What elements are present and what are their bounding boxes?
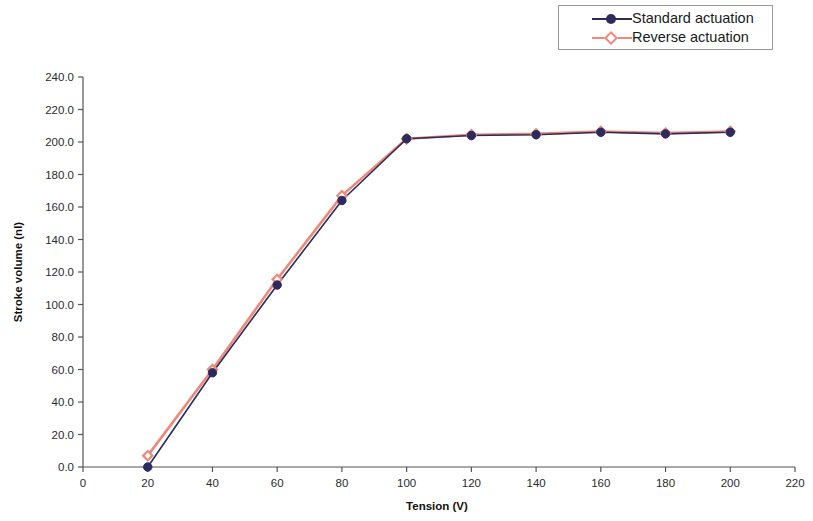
y-tick-label: 220.0: [45, 104, 74, 116]
x-tick-label: 80: [336, 477, 349, 489]
y-tick-label: 80.0: [52, 331, 74, 343]
x-tick-label: 200: [721, 477, 740, 489]
y-axis-title: Stroke volume (nl): [12, 222, 24, 322]
x-tick-label: 220: [785, 477, 804, 489]
y-tick-label: 140.0: [45, 234, 74, 246]
data-point-standard: [532, 130, 540, 138]
y-tick-label: 60.0: [52, 364, 74, 376]
x-tick-label: 60: [271, 477, 284, 489]
legend-label-standard: Standard actuation: [632, 9, 754, 28]
data-point-standard: [273, 281, 281, 289]
legend-marker-circle-icon: [606, 14, 616, 24]
data-point-standard: [208, 369, 216, 377]
y-tick-label: 20.0: [52, 429, 74, 441]
y-tick-label: 0.0: [58, 461, 74, 473]
x-tick-label: 180: [656, 477, 675, 489]
data-point-standard: [338, 196, 346, 204]
legend-label-reverse: Reverse actuation: [632, 28, 749, 47]
chart-legend: Standard actuation Reverse actuation: [558, 5, 773, 50]
x-tick-label: 0: [80, 477, 86, 489]
x-tick-label: 20: [141, 477, 154, 489]
x-tick-label: 100: [397, 477, 416, 489]
legend-swatch-standard: [592, 12, 632, 26]
data-point-standard: [144, 463, 152, 471]
y-tick-label: 160.0: [45, 201, 74, 213]
chart-container: 0.020.040.060.080.0100.0120.0140.0160.01…: [0, 0, 813, 521]
data-point-standard: [726, 128, 734, 136]
y-tick-label: 200.0: [45, 136, 74, 148]
legend-item-reverse: Reverse actuation: [559, 28, 772, 47]
line-chart-plot: 0.020.040.060.080.0100.0120.0140.0160.01…: [0, 0, 813, 521]
data-point-standard: [402, 135, 410, 143]
y-tick-label: 240.0: [45, 71, 74, 83]
data-point-standard: [597, 128, 605, 136]
legend-item-standard: Standard actuation: [559, 9, 772, 28]
legend-swatch-reverse: [592, 31, 632, 45]
x-tick-label: 160: [591, 477, 610, 489]
y-tick-label: 120.0: [45, 266, 74, 278]
x-tick-label: 120: [462, 477, 481, 489]
x-tick-label: 40: [206, 477, 219, 489]
y-tick-label: 40.0: [52, 396, 74, 408]
data-point-standard: [661, 130, 669, 138]
legend-marker-diamond-icon: [604, 30, 618, 44]
data-point-standard: [467, 131, 475, 139]
x-axis-title: Tension (V): [406, 500, 468, 512]
x-tick-label: 140: [526, 477, 545, 489]
y-tick-label: 180.0: [45, 169, 74, 181]
y-tick-label: 100.0: [45, 299, 74, 311]
series-line-reverse: [148, 131, 731, 455]
series-line-standard: [148, 132, 731, 467]
